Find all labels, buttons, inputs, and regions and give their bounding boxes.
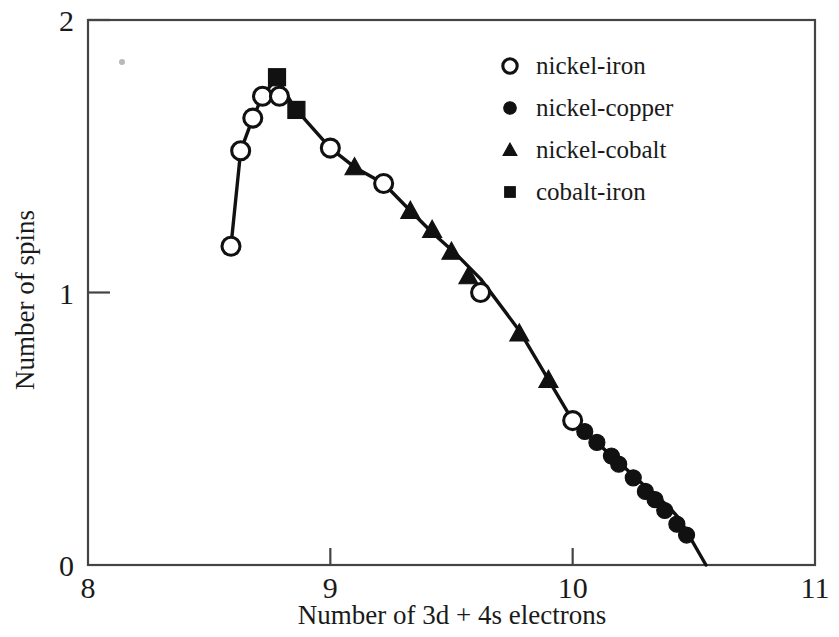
nickel-iron-open-circle-marker	[375, 175, 393, 193]
plot-frame	[88, 20, 815, 565]
legend-label: cobalt-iron	[536, 178, 646, 205]
x-axis-ticks	[330, 548, 572, 565]
legend-item-nickel-copper: nickel-copper	[504, 94, 674, 121]
legend-item-nickel-iron: nickel-iron	[503, 52, 646, 79]
y-tick-label: 1	[59, 277, 74, 310]
nickel-iron-open-circle-marker	[270, 87, 288, 105]
nickel-copper-filled-circle-marker	[657, 503, 673, 519]
legend-label: nickel-copper	[536, 94, 674, 121]
y-axis-tick-labels: 012	[59, 4, 74, 582]
nickel-copper-filled-circle-marker	[679, 527, 695, 543]
nickel-iron-open-circle-marker	[244, 109, 262, 127]
legend-label: nickel-cobalt	[536, 136, 667, 163]
nickel-cobalt-filled-triangle-marker	[423, 220, 442, 237]
nickel-cobalt-filled-triangle-marker	[510, 324, 529, 341]
legend-item-nickel-cobalt: nickel-cobalt	[503, 136, 666, 163]
x-tick-label: 8	[81, 571, 96, 604]
x-tick-label: 11	[801, 571, 830, 604]
legend-nickel-iron-open-circle-marker	[503, 59, 517, 73]
y-axis-ticks	[88, 20, 110, 293]
legend-item-cobalt-iron: cobalt-iron	[505, 178, 646, 205]
cobalt-iron-filled-square-marker	[269, 69, 286, 86]
nickel-cobalt-filled-triangle-marker	[539, 370, 558, 387]
nickel-iron-open-circle-marker	[232, 142, 250, 160]
x-axis-title: Number of 3d + 4s electrons	[298, 600, 606, 630]
nickel-iron-open-circle-marker	[222, 237, 240, 255]
nickel-copper-filled-circle-marker	[625, 470, 641, 486]
nickel-iron-open-circle-marker	[321, 139, 339, 157]
legend-cobalt-iron-filled-square-marker	[505, 187, 516, 198]
scan-speck	[119, 59, 125, 65]
nickel-iron-open-circle-marker	[253, 87, 271, 105]
legend: nickel-ironnickel-coppernickel-cobaltcob…	[503, 52, 674, 205]
cobalt-iron-filled-square-marker	[288, 101, 305, 118]
y-axis-title: Number of spins	[10, 210, 40, 390]
legend-nickel-copper-filled-circle-marker	[504, 102, 516, 114]
slater-pauling-chart: 891011 012 Number of 3d + 4s electrons N…	[0, 0, 839, 637]
y-tick-label: 0	[59, 549, 74, 582]
nickel-iron-open-circle-marker	[472, 284, 490, 302]
nickel-copper-filled-circle-marker	[589, 434, 605, 450]
legend-nickel-cobalt-filled-triangle-marker	[503, 143, 517, 155]
y-tick-label: 2	[59, 4, 74, 37]
plot-area: 891011 012 Number of 3d + 4s electrons N…	[0, 0, 839, 637]
nickel-copper-filled-circle-marker	[611, 456, 627, 472]
legend-label: nickel-iron	[536, 52, 646, 79]
